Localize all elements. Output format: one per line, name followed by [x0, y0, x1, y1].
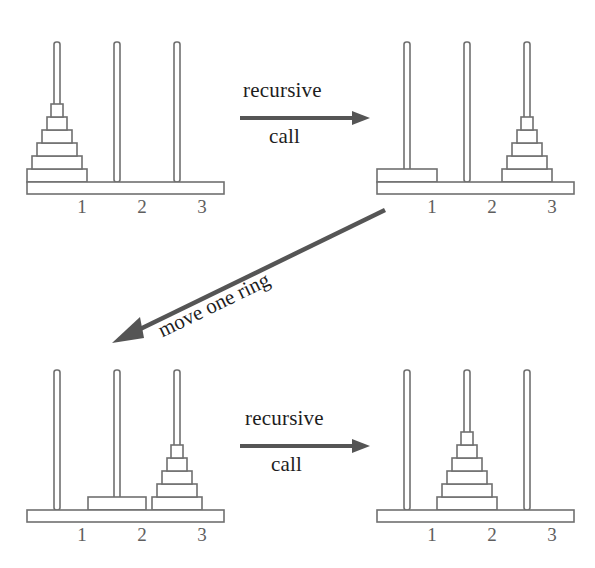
panel-after-move-one-ring: 1 2 3 [28, 362, 228, 517]
ring-2 [47, 117, 67, 130]
peg-1-post [404, 42, 410, 182]
ring-6 [437, 497, 497, 510]
panel-final-drawing [378, 362, 578, 517]
peg-3-post [524, 370, 530, 510]
ring-4 [37, 143, 77, 156]
peg-label-1: 1 [72, 524, 92, 546]
peg-label-2: 2 [482, 196, 502, 218]
ring-6 [88, 497, 146, 510]
ring-3 [512, 143, 542, 156]
ring-4 [507, 156, 547, 169]
panel-after-first-recursive-call-drawing [378, 34, 578, 189]
ring-6 [377, 169, 437, 182]
base-plate [377, 510, 574, 522]
panel-initial: 1 2 3 [28, 34, 228, 189]
panel-final: 1 2 3 [378, 362, 578, 517]
peg-2-post [114, 42, 120, 182]
peg-1-post [404, 370, 410, 510]
base-plate [27, 510, 224, 522]
ring-1 [171, 445, 183, 458]
ring-3 [452, 458, 482, 471]
ring-4 [157, 484, 197, 497]
ring-6 [27, 169, 87, 182]
peg-label-1: 1 [72, 196, 92, 218]
peg-label-3: 3 [542, 196, 562, 218]
arrow-top-label-line2: call [269, 124, 300, 149]
arrow-bottom-label-line1: recursive [245, 406, 324, 431]
ring-4 [447, 471, 487, 484]
ring-2 [167, 458, 187, 471]
ring-5 [502, 169, 552, 182]
arrow-top-icon [240, 110, 370, 126]
base-plate [377, 182, 574, 194]
peg-2-post [464, 42, 470, 182]
panel-after-move-one-ring-drawing [28, 362, 228, 517]
ring-5 [442, 484, 492, 497]
ring-5 [32, 156, 82, 169]
ring-3 [42, 130, 72, 143]
peg-3-post [174, 42, 180, 182]
panel-initial-drawing [28, 34, 228, 189]
ring-2 [517, 130, 537, 143]
peg-label-2: 2 [132, 524, 152, 546]
arrow-bottom-icon [240, 438, 370, 454]
peg-label-1: 1 [422, 524, 442, 546]
peg-1-post [54, 370, 60, 510]
hanoi-figure: 1 2 3 1 2 3 [0, 0, 595, 568]
ring-1 [51, 104, 63, 117]
arrow-bottom-label-line2: call [271, 452, 302, 477]
peg-label-1: 1 [422, 196, 442, 218]
peg-label-2: 2 [482, 524, 502, 546]
ring-1 [521, 117, 533, 130]
peg-2-post [114, 370, 120, 510]
peg-label-3: 3 [542, 524, 562, 546]
arrow-top-label-line1: recursive [243, 78, 322, 103]
panel-after-first-recursive-call: 1 2 3 [378, 34, 578, 189]
ring-3 [162, 471, 192, 484]
ring-5 [152, 497, 202, 510]
peg-label-3: 3 [192, 524, 212, 546]
ring-2 [457, 445, 477, 458]
ring-1 [461, 432, 473, 445]
base-plate [27, 182, 224, 194]
